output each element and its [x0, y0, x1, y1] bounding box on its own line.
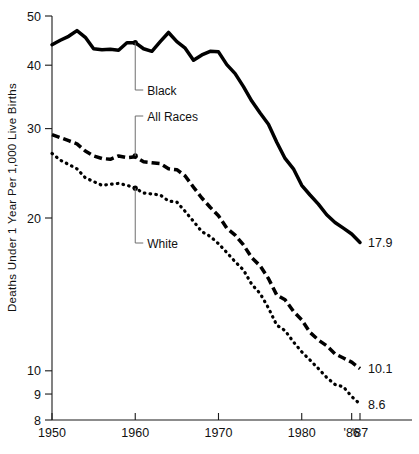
- series-line-all-races: [52, 135, 360, 369]
- series-line-white: [52, 153, 360, 404]
- x-tick-labels: 1950196019701980'86'87: [38, 426, 368, 440]
- end-label-all-races: 10.1: [368, 362, 392, 376]
- y-tick-label: 20: [27, 212, 41, 226]
- annotation-group: Black All Races White: [133, 40, 198, 250]
- y-tick-label: 10: [27, 364, 41, 378]
- x-tick-label: 1950: [38, 426, 66, 440]
- y-axis-group: 504030201098 Deaths Under 1 Year Per 1,0…: [6, 10, 52, 428]
- annotation-label-all-races: All Races: [147, 110, 198, 124]
- annotation-leader-all-races: [135, 116, 143, 156]
- y-tick-labels: 504030201098: [27, 10, 41, 428]
- y-tick-label: 9: [34, 388, 41, 402]
- annotation-all-races: All Races: [133, 110, 198, 159]
- infant-mortality-chart: 504030201098 Deaths Under 1 Year Per 1,0…: [0, 0, 419, 454]
- end-label-white: 8.6: [368, 398, 385, 412]
- end-label-black: 17.9: [368, 236, 392, 250]
- x-tick-label: '87: [352, 426, 368, 440]
- x-tick-label: 1970: [205, 426, 233, 440]
- annotation-label-white: White: [147, 237, 178, 251]
- annotation-leader-white: [135, 188, 143, 243]
- y-axis-title: Deaths Under 1 Year Per 1,000 Live Birth…: [6, 83, 18, 312]
- series-line-black: [52, 31, 360, 243]
- x-axis-group: 1950196019701980'86'87: [38, 413, 412, 440]
- y-tick-label: 50: [27, 10, 41, 24]
- y-tick-label: 30: [27, 122, 41, 136]
- annotation-label-black: Black: [147, 84, 177, 98]
- x-tick-marks: [52, 413, 360, 420]
- end-label-group: 17.9 10.1 8.6: [368, 236, 392, 412]
- x-tick-label: 1960: [121, 426, 149, 440]
- y-tick-marks: [45, 16, 52, 420]
- x-tick-label: 1980: [288, 426, 316, 440]
- chart-canvas: 504030201098 Deaths Under 1 Year Per 1,0…: [0, 0, 419, 454]
- y-tick-label: 40: [27, 59, 41, 73]
- series-group: [52, 31, 360, 404]
